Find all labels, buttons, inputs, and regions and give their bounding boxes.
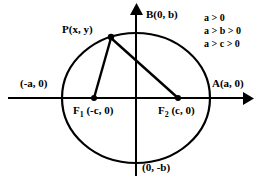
label-vertex-top-b: B(0, b): [146, 9, 178, 20]
focus-left-coords: (-c, 0): [86, 104, 113, 116]
conditions-block: a > 0 a > b > 0 a > c > 0: [204, 11, 241, 50]
label-vertex-bottom: (0, -b): [142, 162, 170, 173]
focus-right-subscript: 2: [165, 110, 169, 119]
focus-right-name: F: [158, 104, 165, 116]
x-axis-arrowhead-icon: [243, 92, 254, 105]
condition-line-1: a > 0: [204, 11, 241, 24]
point-marker-p: [108, 34, 114, 40]
focus-right-coords: (c, 0): [171, 104, 194, 116]
focus-left-name: F: [73, 104, 80, 116]
label-focus-left: F1 (-c, 0): [73, 105, 113, 119]
focus-left-subscript: 1: [80, 110, 84, 119]
label-vertex-left: (-a, 0): [20, 78, 48, 89]
label-point-p: P(x, y): [62, 24, 93, 35]
condition-line-3: a > c > 0: [204, 37, 241, 50]
label-focus-right: F2 (c, 0): [158, 105, 195, 119]
point-marker-f2: [175, 95, 181, 101]
label-vertex-right-a: A(a, 0): [212, 78, 244, 89]
focal-radius-p-f1: [94, 38, 111, 98]
ellipse-figure: P(x, y) B(0, b) A(a, 0) (-a, 0) F1 (-c, …: [0, 0, 259, 185]
focal-radius-p-f2: [111, 38, 178, 98]
point-marker-f1: [91, 95, 97, 101]
y-axis-arrowhead-icon: [130, 3, 143, 15]
condition-line-2: a > b > 0: [204, 24, 241, 37]
